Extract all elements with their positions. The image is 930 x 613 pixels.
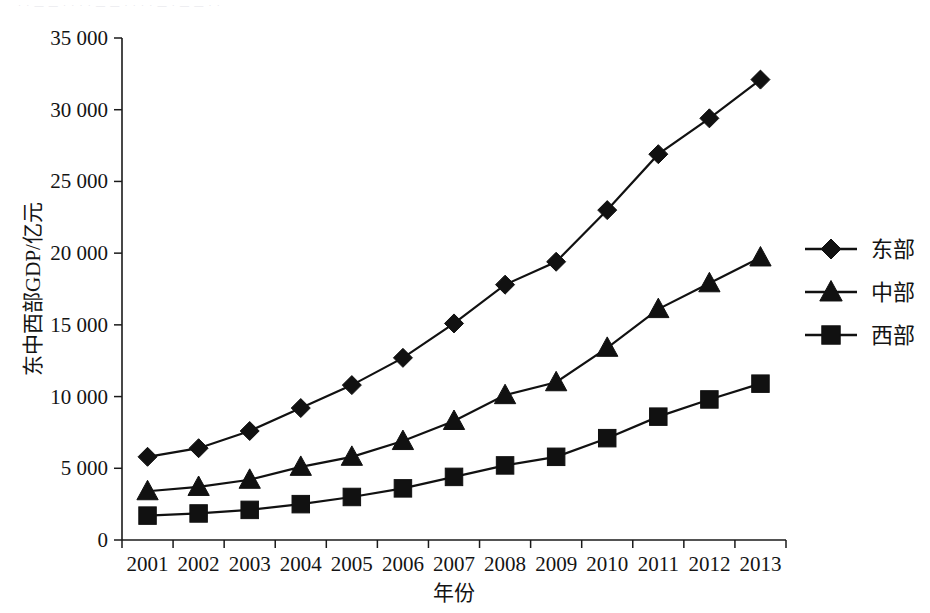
- y-axis-tick-labels: 05 00010 00015 00020 00025 00030 00035 0…: [50, 26, 108, 552]
- x-axis-ticks: [122, 540, 786, 548]
- data-point-marker: [699, 272, 720, 291]
- series-line: [148, 80, 761, 457]
- x-tick-label: 2006: [382, 552, 424, 576]
- triangle-marker-icon: [820, 281, 842, 301]
- y-tick-label: 5 000: [61, 456, 108, 480]
- diamond-marker-icon: [821, 239, 841, 259]
- y-tick-label: 30 000: [50, 98, 108, 122]
- y-tick-label: 20 000: [50, 241, 108, 265]
- x-tick-label: 2003: [229, 552, 271, 576]
- x-tick-label: 2001: [127, 552, 169, 576]
- data-point-marker: [546, 371, 567, 390]
- data-point-marker: [443, 410, 464, 429]
- data-point-marker: [648, 298, 669, 317]
- data-point-marker: [240, 421, 259, 440]
- data-point-marker: [751, 70, 770, 89]
- data-point-marker: [343, 488, 360, 505]
- data-point-marker: [750, 247, 771, 266]
- legend-item-3[interactable]: 西部: [805, 323, 915, 348]
- x-tick-label: 2011: [638, 552, 679, 576]
- legend-item-1[interactable]: 东部: [805, 237, 915, 262]
- x-axis-title: 年份: [433, 581, 475, 605]
- x-tick-label: 2008: [484, 552, 526, 576]
- x-tick-label: 2002: [178, 552, 220, 576]
- data-point-marker: [292, 495, 309, 512]
- x-tick-label: 2013: [739, 552, 781, 576]
- data-point-marker: [190, 505, 207, 522]
- y-axis-title: 东中西部GDP/亿元: [21, 202, 45, 376]
- data-point-marker: [394, 480, 411, 497]
- x-tick-label: 2007: [433, 552, 475, 576]
- data-point-marker: [138, 447, 157, 466]
- series-2: [137, 247, 771, 500]
- series-3: [139, 375, 769, 524]
- y-tick-label: 35 000: [50, 26, 108, 50]
- series-1: [138, 70, 770, 466]
- x-tick-label: 2005: [331, 552, 373, 576]
- data-point-marker: [700, 109, 719, 128]
- data-point-marker: [701, 391, 718, 408]
- data-point-marker: [496, 457, 513, 474]
- data-point-marker: [445, 314, 464, 333]
- series-line: [148, 257, 761, 491]
- y-axis-ticks: [114, 38, 122, 540]
- square-marker-icon: [822, 326, 840, 344]
- series-layer: [137, 70, 771, 524]
- data-point-marker: [598, 429, 615, 446]
- y-tick-label: 25 000: [50, 169, 108, 193]
- chart-figure: · · — — · · · · — — · · · · — · — — · · …: [0, 0, 930, 613]
- chart-legend: 东部中部西部: [805, 237, 915, 348]
- data-point-marker: [342, 376, 361, 395]
- data-point-marker: [291, 399, 310, 418]
- legend-label: 中部: [871, 280, 915, 305]
- x-tick-label: 2012: [688, 552, 730, 576]
- data-point-marker: [139, 507, 156, 524]
- series-line: [148, 384, 761, 516]
- data-point-marker: [445, 468, 462, 485]
- data-point-marker: [547, 448, 564, 465]
- legend-label: 东部: [871, 237, 915, 262]
- x-tick-label: 2004: [280, 552, 323, 576]
- data-point-marker: [752, 375, 769, 392]
- x-tick-label: 2010: [586, 552, 628, 576]
- data-point-marker: [392, 430, 413, 449]
- line-chart: 05 00010 00015 00020 00025 00030 00035 0…: [0, 0, 930, 613]
- data-point-marker: [241, 501, 258, 518]
- data-point-marker: [650, 408, 667, 425]
- x-tick-label: 2009: [535, 552, 577, 576]
- legend-item-2[interactable]: 中部: [805, 280, 915, 305]
- data-point-marker: [393, 348, 412, 367]
- x-axis-tick-labels: 2001200220032004200520062007200820092010…: [127, 552, 782, 576]
- y-tick-label: 15 000: [50, 313, 108, 337]
- data-point-marker: [597, 337, 618, 356]
- data-point-marker: [496, 275, 515, 294]
- data-point-marker: [189, 439, 208, 458]
- y-tick-label: 0: [98, 528, 109, 552]
- y-tick-label: 10 000: [50, 385, 108, 409]
- legend-label: 西部: [871, 323, 915, 348]
